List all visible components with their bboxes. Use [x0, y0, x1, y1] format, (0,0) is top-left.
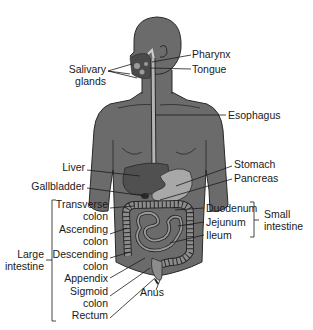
label-descending-colon-line1: Descending	[50, 248, 108, 260]
label-ileum: Ileum	[206, 229, 232, 241]
label-pharynx: Pharynx	[192, 48, 231, 60]
label-appendix: Appendix	[50, 272, 108, 284]
rectum	[152, 258, 163, 280]
label-small-intestine-line1: Small	[264, 208, 290, 220]
label-anus: Anus	[140, 286, 164, 298]
label-large-intestine-line2: intestine	[0, 260, 44, 272]
label-sigmoid-colon-line1: Sigmoid	[50, 285, 108, 297]
label-tongue: Tongue	[192, 63, 226, 75]
label-salivary-glands-line2: glands	[64, 75, 106, 87]
label-salivary-glands-line1: Salivary	[64, 63, 106, 75]
label-ascending-colon-line2: colon	[50, 235, 108, 247]
label-gallbladder: Gallbladder	[20, 180, 85, 192]
label-transverse-colon-line1: Transverse	[50, 198, 108, 210]
label-small-intestine-line2: intestine	[264, 220, 303, 232]
label-stomach: Stomach	[234, 158, 275, 170]
label-duodenum: Duodenum	[206, 202, 257, 214]
label-ascending-colon-line1: Ascending	[50, 223, 108, 235]
label-rectum: Rectum	[50, 309, 108, 321]
label-esophagus: Esophagus	[228, 109, 281, 121]
label-sigmoid-colon-line2: colon	[50, 297, 108, 309]
label-transverse-colon-line2: colon	[50, 210, 108, 222]
label-large-intestine-line1: Large	[0, 248, 44, 260]
label-jejunum: Jejunum	[206, 216, 246, 228]
label-pancreas: Pancreas	[234, 172, 278, 184]
label-descending-colon-line2: colon	[50, 260, 108, 272]
label-liver: Liver	[40, 161, 85, 173]
